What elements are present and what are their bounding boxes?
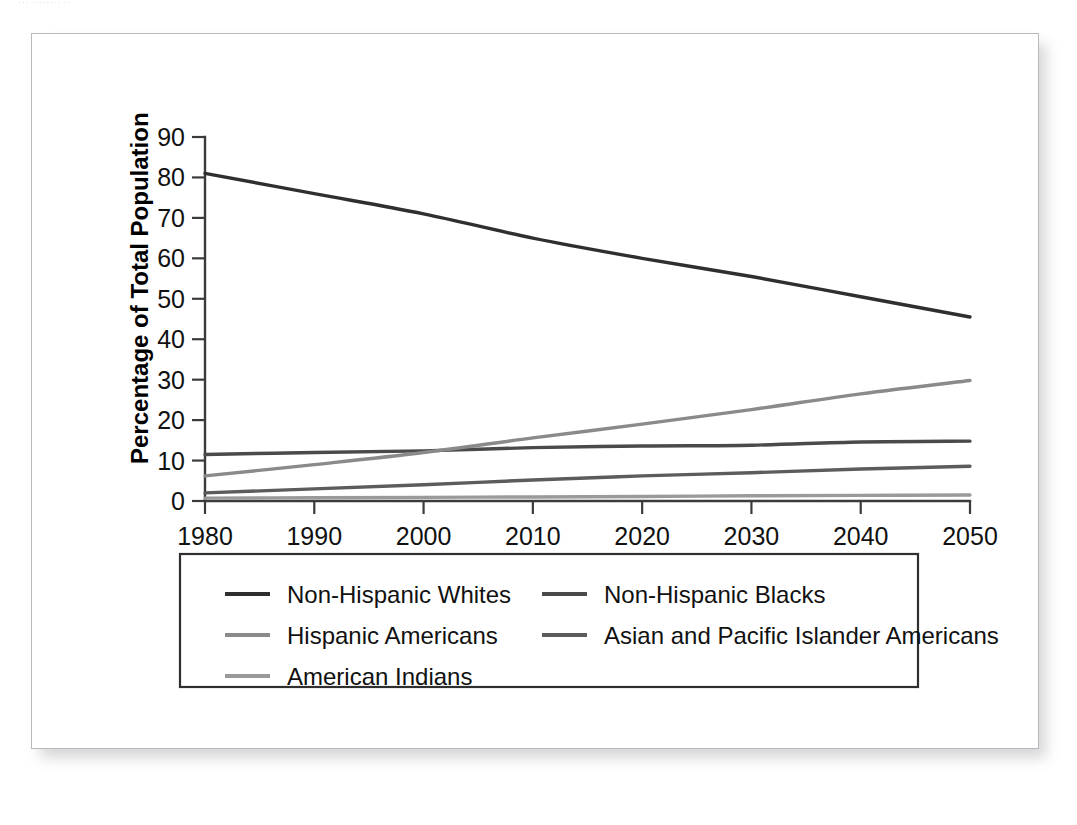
- y-tick-label: 60: [157, 244, 185, 272]
- y-tick-label: 0: [171, 487, 185, 515]
- series-line-3: [205, 466, 970, 493]
- x-tick-label: 2040: [833, 522, 889, 550]
- y-tick-label: 30: [157, 366, 185, 394]
- x-tick-label: 2050: [942, 522, 998, 550]
- y-axis-ticks: 0102030405060708090: [157, 123, 205, 515]
- legend-label-3: Asian and Pacific Islander Americans: [604, 622, 999, 649]
- x-tick-label: 2020: [614, 522, 670, 550]
- legend: Non-Hispanic WhitesNon-Hispanic BlacksHi…: [225, 581, 999, 690]
- series-line-2: [205, 380, 970, 475]
- series-line-0: [205, 173, 970, 317]
- x-axis-ticks: 19801990200020102020203020402050: [177, 501, 998, 550]
- y-tick-label: 40: [157, 325, 185, 353]
- legend-label-0: Non-Hispanic Whites: [287, 581, 511, 608]
- y-tick-label: 20: [157, 406, 185, 434]
- line-chart-figure: Percentage of Total Population 010203040…: [32, 34, 1040, 750]
- y-tick-label: 10: [157, 447, 185, 475]
- legend-label-2: Hispanic Americans: [287, 622, 498, 649]
- y-tick-label: 70: [157, 204, 185, 232]
- chart-series-lines: [205, 173, 970, 498]
- chart-canvas: Percentage of Total Population 010203040…: [32, 34, 1040, 750]
- y-tick-label: 90: [157, 123, 185, 151]
- y-axis-title-label: Percentage of Total Population: [126, 112, 153, 464]
- x-tick-label: 1990: [286, 522, 342, 550]
- page-root: ··· ········ ·· Percentage of Total Popu…: [0, 0, 1077, 825]
- x-tick-label: 1980: [177, 522, 233, 550]
- top-text-fragment: ··· ········ ··: [18, 0, 71, 8]
- y-axis-title: Percentage of Total Population: [126, 112, 153, 464]
- y-tick-label: 50: [157, 285, 185, 313]
- figure-card: Percentage of Total Population 010203040…: [31, 33, 1039, 749]
- legend-label-1: Non-Hispanic Blacks: [604, 581, 825, 608]
- series-line-1: [205, 441, 970, 454]
- x-tick-label: 2010: [505, 522, 561, 550]
- series-line-4: [205, 495, 970, 498]
- x-tick-label: 2030: [724, 522, 780, 550]
- y-tick-label: 80: [157, 163, 185, 191]
- legend-label-4: American Indians: [287, 663, 472, 690]
- x-tick-label: 2000: [396, 522, 452, 550]
